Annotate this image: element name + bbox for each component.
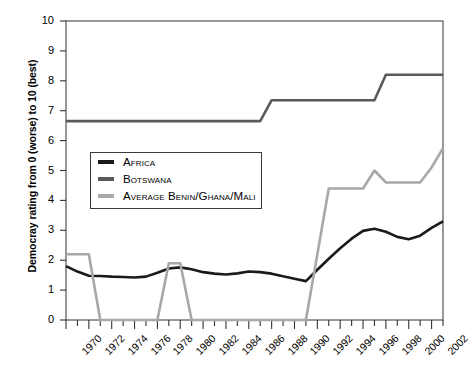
legend-item-2: Botswana	[91, 170, 261, 187]
legend-item-1: Africa	[91, 153, 261, 170]
legend-label: Botswana	[123, 173, 172, 185]
chart-legend: AfricaBotswanaAverage Benin/Ghana/Mali	[90, 152, 262, 209]
series-line-1	[66, 221, 443, 281]
legend-label: Average Benin/Ghana/Mali	[123, 190, 256, 202]
legend-swatch-icon	[98, 194, 114, 198]
legend-item-3: Average Benin/Ghana/Mali	[91, 187, 261, 204]
legend-swatch-icon	[98, 160, 114, 164]
legend-swatch-icon	[98, 177, 114, 181]
series-line-2	[66, 75, 443, 121]
legend-label: Africa	[123, 156, 155, 168]
